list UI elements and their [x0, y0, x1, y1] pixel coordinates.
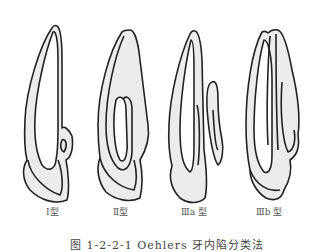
tooth-type-2 — [98, 30, 149, 200]
figure-caption: 图 1-2-2-1 Oehlers 牙内陷分类法 — [70, 236, 264, 252]
label-type-2: Ⅱ型 — [113, 205, 128, 218]
label-type-3b: Ⅲb 型 — [256, 205, 282, 218]
label-type-3a: Ⅲa 型 — [181, 205, 207, 218]
tooth-type-3a — [169, 31, 223, 203]
label-type-1: Ⅰ型 — [46, 205, 59, 218]
tooth-type-3b — [246, 30, 299, 200]
tooth-type-1 — [24, 26, 73, 202]
